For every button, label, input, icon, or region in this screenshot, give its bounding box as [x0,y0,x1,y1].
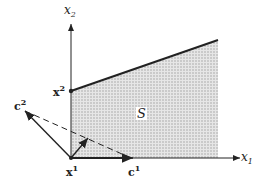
x1-axis-label-base: x [241,150,248,164]
vector-c1-label-sup: 1 [135,163,141,173]
point-x2 [69,89,73,93]
region-label-text: S [137,106,146,121]
vector-c2-label-base: c [14,100,21,113]
x2-axis-label: x2 [64,4,76,19]
x2-axis-label-base: x [64,3,71,17]
point-x1 [69,156,73,160]
point-x1-label: x1 [66,164,78,178]
point-x1-label-sup: 1 [73,163,79,173]
feasible-region-s [71,40,218,158]
vector-c2 [25,111,71,158]
point-x2-label-sup: 2 [60,83,66,93]
region-label: S [136,107,147,120]
vector-c2-label: c2 [14,98,26,112]
diagram: x2 x1 S x2 x1 c1 c2 [0,0,263,182]
vector-c2-label-sup: 2 [21,97,27,107]
vector-c1-label-base: c [128,166,135,179]
diagram-canvas [0,0,263,182]
x1-axis-label: x1 [241,151,253,166]
point-x2-label: x2 [53,84,65,98]
x2-axis-label-sub: 2 [71,10,76,19]
vector-c1-label: c1 [128,164,140,178]
x1-axis-label-sub: 1 [248,157,253,166]
